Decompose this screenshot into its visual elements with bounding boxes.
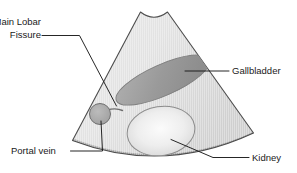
ultrasound-diagram: Main Lobar Fissure Gallbladder Portal ve… <box>0 0 297 173</box>
label-portal-vein: Portal vein <box>11 145 56 156</box>
label-main-lobar-fissure-line2: Fissure <box>10 29 41 40</box>
label-gallbladder: Gallbladder <box>232 65 281 76</box>
label-kidney: Kidney <box>252 152 281 163</box>
portal-vein-shape <box>90 104 111 125</box>
diagram-canvas: Main Lobar Fissure Gallbladder Portal ve… <box>0 0 297 173</box>
portal-vein-circle <box>90 104 111 125</box>
label-main-lobar-fissure-line1: Main Lobar <box>0 16 41 27</box>
